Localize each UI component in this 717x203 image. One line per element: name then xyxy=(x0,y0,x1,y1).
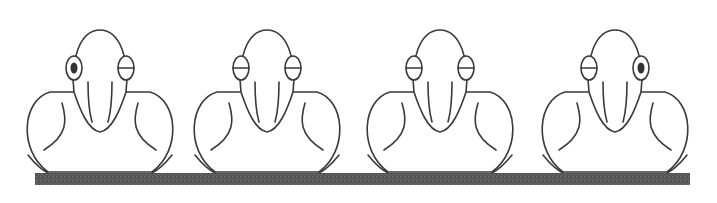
left-eye-closed-icon xyxy=(233,56,249,80)
right-eye-closed-icon xyxy=(458,56,474,80)
perch-bar xyxy=(35,173,690,185)
left-eye-closed-icon xyxy=(406,56,422,80)
right-eye-closed-icon xyxy=(285,56,301,80)
birds-on-perch-diagram xyxy=(0,0,717,203)
left-eye-open-icon xyxy=(66,56,82,80)
bird-4 xyxy=(542,30,688,173)
left-eye-closed-icon xyxy=(581,56,597,80)
bird-1 xyxy=(27,30,173,173)
right-eye-open-icon xyxy=(633,56,649,80)
bird-2 xyxy=(194,30,340,173)
bird-3 xyxy=(367,30,513,173)
right-eye-closed-icon xyxy=(118,56,134,80)
